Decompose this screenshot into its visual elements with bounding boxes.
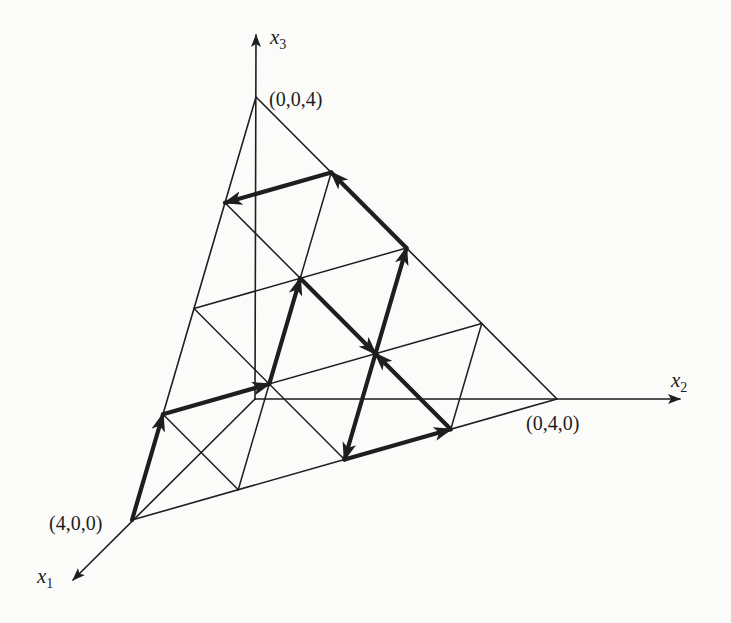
- x1-axis-label: x1: [36, 564, 53, 591]
- path-segment-7: [376, 354, 451, 430]
- path-segment-3: [269, 278, 300, 384]
- path-segment-5: [345, 354, 376, 460]
- simplex-diagram: x3 x2 x1 (0,0,4) (0,4,0) (4,0,0): [0, 0, 731, 623]
- path-segment-8: [376, 248, 407, 354]
- path-segment-1: [132, 414, 163, 520]
- x3-axis-label: x3: [269, 25, 286, 52]
- path-segment-4: [300, 278, 375, 354]
- coordinate-axes: [73, 35, 680, 580]
- x2-axis-label: x2: [670, 368, 687, 395]
- x1-axis-line: [73, 399, 255, 580]
- path-segment-6: [345, 429, 451, 459]
- grid-line-b3: [451, 324, 482, 430]
- path-segment-10: [225, 173, 331, 203]
- vertex-label-b: (0,4,0): [526, 412, 579, 435]
- path-segment-9: [331, 173, 406, 249]
- x3-axis-line: [255, 35, 256, 399]
- vertex-label-a: (4,0,0): [49, 512, 102, 535]
- vertex-label-c: (0,0,4): [269, 88, 322, 111]
- path-segment-2: [163, 384, 269, 414]
